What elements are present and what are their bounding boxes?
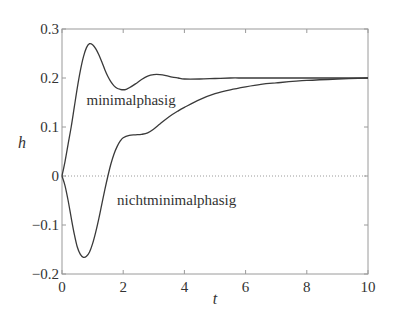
axes-box — [62, 29, 368, 274]
data-curves — [62, 44, 368, 258]
x-tick-label: 4 — [181, 279, 189, 295]
y-tick-label: 0.1 — [40, 119, 59, 135]
step-response-chart: 0246810−0.2−0.100.10.20.3 minimalphasign… — [0, 0, 396, 318]
y-tick-label: 0.2 — [40, 70, 59, 86]
axis-ticks — [62, 29, 368, 274]
x-tick-label: 6 — [242, 279, 250, 295]
y-axis-label: h — [18, 134, 26, 151]
annotation-nichtminimalphasig: nichtminimalphasig — [117, 192, 237, 208]
curve-annotations: minimalphasignichtminimalphasig — [86, 92, 236, 208]
annotation-minimalphasig: minimalphasig — [86, 92, 176, 108]
y-tick-label: 0 — [52, 168, 60, 184]
y-tick-label: −0.1 — [32, 217, 59, 233]
curve-minimalphasig — [62, 44, 368, 176]
x-tick-label: 2 — [119, 279, 127, 295]
x-tick-label: 10 — [361, 279, 376, 295]
x-tick-label: 0 — [58, 279, 66, 295]
axis-tick-labels: 0246810−0.2−0.100.10.20.3 — [32, 21, 376, 295]
plot-frame — [62, 29, 368, 274]
x-tick-label: 8 — [303, 279, 311, 295]
y-tick-label: 0.3 — [40, 21, 59, 37]
y-tick-label: −0.2 — [32, 266, 59, 282]
x-axis-label: t — [213, 290, 218, 307]
